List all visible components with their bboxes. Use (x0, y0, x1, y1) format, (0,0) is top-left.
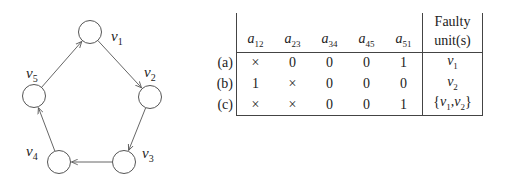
cell: 1 (237, 74, 275, 95)
node-label-v2: v2 (144, 64, 156, 83)
node-v1 (79, 21, 102, 44)
cell: 0 (348, 74, 385, 95)
faulty-units: v2 (423, 74, 483, 95)
cell: × (237, 52, 275, 73)
column-header-a45: a45 (348, 31, 385, 52)
column-header-a34: a34 (311, 31, 348, 52)
faulty-units: {v1,v2} (423, 94, 483, 115)
cell: 0 (311, 74, 348, 95)
cell: 0 (274, 52, 311, 73)
cell: 0 (348, 94, 385, 115)
edge-v1-v2 (98, 40, 142, 87)
cell: × (237, 94, 275, 115)
row-label: (c) (200, 94, 237, 115)
row-label: (a) (200, 52, 237, 73)
node-label-v3: v3 (142, 145, 154, 164)
edge-v4-v5 (38, 108, 54, 152)
cell: 1 (385, 52, 423, 73)
cell: × (274, 74, 311, 95)
row-label: (b) (200, 74, 237, 95)
cell: 0 (311, 52, 348, 73)
edge-v5-v1 (42, 41, 82, 87)
syndrome-table: Faulty a12a23a34a45a51unit(s) (a)×0001v1… (200, 13, 483, 116)
node-label-v4: v4 (26, 143, 38, 162)
header-faulty: Faulty (423, 13, 483, 31)
node-v3 (113, 151, 136, 174)
node-label-v1: v1 (111, 28, 123, 47)
node-v5 (23, 85, 46, 108)
faulty-units: v1 (423, 52, 483, 73)
node-v2 (139, 86, 162, 109)
node-label-v5: v5 (26, 65, 38, 84)
table-row: (a)×0001v1 (200, 52, 483, 73)
cell: 0 (385, 74, 423, 95)
table-row: (b)1×000v2 (200, 74, 483, 95)
column-header-a51: a51 (385, 31, 423, 52)
edge-v2-v3 (129, 108, 146, 151)
header-units: unit(s) (423, 31, 483, 52)
column-header-a12: a12 (237, 31, 275, 52)
cell: 0 (348, 52, 385, 73)
cell: 1 (385, 94, 423, 115)
table-row: (c)××001{v1,v2} (200, 94, 483, 115)
column-header-a23: a23 (274, 31, 311, 52)
cell: 0 (311, 94, 348, 115)
cell: × (274, 94, 311, 115)
node-v4 (48, 151, 71, 174)
